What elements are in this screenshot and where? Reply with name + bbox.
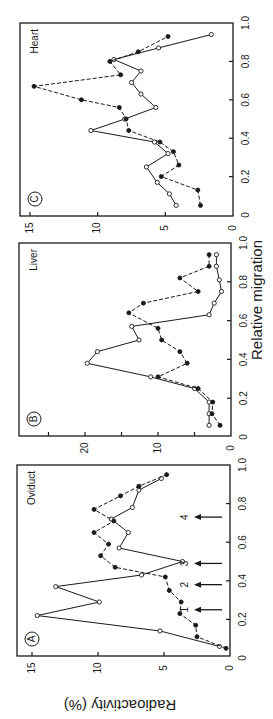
data-point-open xyxy=(95,350,99,354)
data-point-filled xyxy=(196,188,200,192)
data-point-open xyxy=(139,92,143,96)
data-point-open xyxy=(214,253,218,257)
data-point-filled xyxy=(185,361,189,365)
panel-letter: B xyxy=(28,415,39,422)
x-tick-label: 0.6 xyxy=(240,92,251,106)
data-point-open xyxy=(167,192,171,196)
data-point-filled xyxy=(141,301,145,305)
data-point-open xyxy=(130,324,134,328)
data-point-filled xyxy=(99,554,103,558)
arrow-head-icon xyxy=(194,607,201,613)
data-point-filled xyxy=(167,588,171,592)
data-point-filled xyxy=(207,253,211,257)
data-point-filled xyxy=(117,105,121,109)
data-point-filled xyxy=(196,290,200,294)
y-tick-label: 20 xyxy=(79,442,90,454)
data-point-filled xyxy=(32,84,36,88)
x-tick-label: 0.8 xyxy=(238,274,249,288)
y-axis-label: Radioactivity (%) xyxy=(64,697,177,714)
arrow-head-icon xyxy=(194,582,201,588)
x-tick-label: 0.4 xyxy=(237,573,248,587)
data-point-filled xyxy=(163,575,167,579)
data-point-open xyxy=(89,128,93,132)
plot-frame xyxy=(17,465,230,656)
x-tick-label: 0.8 xyxy=(237,496,248,510)
data-point-filled xyxy=(124,117,128,121)
data-point-open xyxy=(207,313,211,317)
marker-label: 1 xyxy=(179,607,190,613)
data-point-open xyxy=(219,289,223,293)
data-point-filled xyxy=(179,600,183,604)
data-point-filled xyxy=(160,338,164,342)
marker-label: 4 xyxy=(179,514,190,520)
data-point-open xyxy=(129,80,133,84)
data-point-open xyxy=(139,573,143,577)
panel-heart: 00.20.40.60.81.0051015CHeart xyxy=(20,16,251,234)
x-tick-label: 0 xyxy=(237,655,248,661)
panel-title: Heart xyxy=(29,29,40,54)
data-point-open xyxy=(144,165,148,169)
y-tick-label: 15 xyxy=(26,662,37,674)
data-point-open xyxy=(166,151,170,155)
x-tick-label: 1.0 xyxy=(238,236,249,250)
x-tick-label: 0 xyxy=(238,434,249,440)
x-tick-label: 0.4 xyxy=(238,352,249,366)
data-point-open xyxy=(85,361,89,365)
data-point-open xyxy=(137,338,141,342)
y-tick-label: 5 xyxy=(159,225,170,231)
data-point-filled xyxy=(166,34,170,38)
y-tick-label: 5 xyxy=(158,665,169,671)
data-point-filled xyxy=(178,350,182,354)
series-filled-line xyxy=(34,36,200,205)
data-point-filled xyxy=(224,646,228,650)
panel-liver: 00.20.40.60.81.001020BLiver xyxy=(19,236,249,454)
data-point-filled xyxy=(92,507,96,511)
data-point-filled xyxy=(158,140,162,144)
data-point-filled xyxy=(79,98,83,102)
data-point-filled xyxy=(195,635,199,639)
panel-title: Liver xyxy=(28,248,39,270)
data-point-filled xyxy=(118,494,122,498)
series-open-line xyxy=(37,479,219,647)
plot-frame xyxy=(19,243,231,436)
data-point-filled xyxy=(108,59,112,63)
data-point-open xyxy=(35,613,39,617)
data-point-filled xyxy=(207,264,211,268)
data-point-filled xyxy=(218,423,222,427)
data-point-open xyxy=(126,530,130,534)
data-point-filled xyxy=(92,531,96,535)
panel-oviduct: 00.20.40.60.81.0051015AOviduct1234 xyxy=(17,458,248,674)
panel-letter: C xyxy=(29,195,40,202)
data-point-open xyxy=(54,584,58,588)
data-point-open xyxy=(117,546,121,550)
data-point-filled xyxy=(119,73,123,77)
data-point-open xyxy=(207,423,211,427)
data-point-open xyxy=(97,600,101,604)
x-tick-label: 0.4 xyxy=(240,131,251,145)
data-point-filled xyxy=(113,565,117,569)
y-tick-label: 0 xyxy=(225,445,236,451)
data-point-filled xyxy=(210,412,214,416)
x-tick-label: 0.6 xyxy=(238,313,249,327)
data-point-filled xyxy=(159,175,163,179)
series-filled-line xyxy=(94,475,226,649)
y-tick-label: 0 xyxy=(224,665,235,671)
y-tick-label: 10 xyxy=(91,222,102,234)
data-point-filled xyxy=(194,623,198,627)
data-point-filled xyxy=(196,387,200,391)
x-tick-label: 0 xyxy=(240,212,251,218)
marker-label: 2 xyxy=(179,581,190,587)
data-point-open xyxy=(155,180,159,184)
data-point-filled xyxy=(127,129,131,133)
x-tick-label: 0.8 xyxy=(240,54,251,68)
y-tick-label: 10 xyxy=(92,662,103,674)
arrow-head-icon xyxy=(194,560,201,566)
x-tick-label: 0.2 xyxy=(237,612,248,626)
data-point-filled xyxy=(171,150,175,154)
panels-group: 00.20.40.60.81.0051015AOviduct123400.20.… xyxy=(17,16,251,674)
data-point-open xyxy=(214,264,218,268)
data-point-open xyxy=(156,46,160,50)
x-tick-label: 1.0 xyxy=(240,16,251,30)
data-point-filled xyxy=(107,542,111,546)
arrow-head-icon xyxy=(194,514,201,520)
